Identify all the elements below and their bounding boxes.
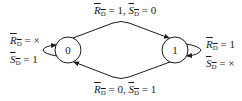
self-loop-0-label-r: RD = × (10, 34, 40, 50)
self-loop-1-label-r: RD = 1 (206, 38, 235, 54)
state-0-label: 0 (55, 44, 81, 56)
transition-0-to-1-label: RD = 1, SD = 0 (94, 4, 156, 20)
transition-0-to-1-arrow (73, 22, 169, 39)
state-diagram: 0 1 RD = 1, SD = 0 RD = 0, SD = 1 RD = ×… (0, 0, 242, 101)
r-var: RD (94, 83, 106, 95)
r-var: RD (94, 4, 106, 16)
s-var: SD (129, 4, 140, 16)
self-loop-1-label-s: SD = × (206, 57, 234, 73)
s-var: SD (129, 83, 140, 95)
transition-1-to-0-arrow (74, 62, 170, 79)
self-loop-0-label-s: SD = 1 (10, 53, 38, 69)
transition-1-to-0-label: RD = 0, SD = 1 (94, 83, 156, 99)
state-1-label: 1 (162, 44, 188, 56)
